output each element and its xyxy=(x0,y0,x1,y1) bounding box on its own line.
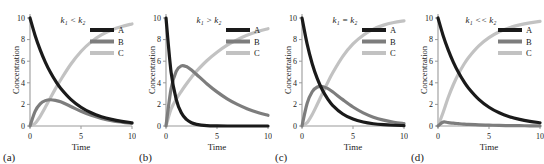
y-tick-label: 0 xyxy=(429,122,433,131)
curve-b xyxy=(438,122,540,126)
y-tick-label: 8 xyxy=(157,35,161,44)
y-tick-label: 4 xyxy=(21,79,25,88)
legend-label-b: B xyxy=(526,37,532,47)
x-tick-label: 10 xyxy=(536,132,544,141)
y-tick-label: 6 xyxy=(429,57,433,66)
curve-b xyxy=(166,66,268,126)
curve-c xyxy=(438,21,540,126)
y-tick-label: 0 xyxy=(21,122,25,131)
rate-annotation: k₁ > k₂ xyxy=(197,15,222,25)
x-tick-label: 5 xyxy=(79,132,83,141)
y-tick-label: 10 xyxy=(153,14,161,23)
y-tick-label: 4 xyxy=(157,79,161,88)
x-tick-label: 5 xyxy=(215,132,219,141)
legend-label-a: A xyxy=(118,25,125,35)
x-axis-label: Time xyxy=(302,142,404,152)
plot-panel-c: 02468100510k₁ = k₂ABCConcentrationTime(c… xyxy=(272,0,408,164)
y-tick-label: 2 xyxy=(429,100,433,109)
rate-annotation: k₁ < k₂ xyxy=(61,15,86,25)
y-tick-label: 2 xyxy=(157,100,161,109)
x-tick-label: 0 xyxy=(300,132,304,141)
y-axis-label: Concentration xyxy=(407,0,417,24)
curve-c xyxy=(302,21,404,126)
legend-label-b: B xyxy=(118,37,124,47)
y-tick-label: 2 xyxy=(21,100,25,109)
y-tick-label: 0 xyxy=(293,122,297,131)
legend-label-a: A xyxy=(390,25,397,35)
legend-label-b: B xyxy=(390,37,396,47)
x-axis-label: Time xyxy=(30,142,132,152)
y-tick-label: 0 xyxy=(157,122,161,131)
x-tick-label: 0 xyxy=(164,132,168,141)
panel-label-b: (b) xyxy=(139,151,152,163)
x-tick-label: 10 xyxy=(400,132,408,141)
x-axis-label: Time xyxy=(166,142,268,152)
legend-label-c: C xyxy=(118,48,124,58)
y-tick-label: 4 xyxy=(429,79,433,88)
plot-panel-a: 02468100510k₁ < k₂ABCConcentrationTime(a… xyxy=(0,0,136,164)
legend-label-b: B xyxy=(254,37,260,47)
x-tick-label: 0 xyxy=(28,132,32,141)
legend-label-c: C xyxy=(390,48,396,58)
legend-label-c: C xyxy=(526,48,532,58)
y-tick-label: 8 xyxy=(293,35,297,44)
plot-panel-b: 02468100510k₁ > k₂ABCConcentrationTime(b… xyxy=(136,0,272,164)
rate-annotation: k₁ = k₂ xyxy=(333,15,358,25)
legend-label-c: C xyxy=(254,48,260,58)
y-tick-label: 10 xyxy=(289,14,297,23)
y-tick-label: 6 xyxy=(293,57,297,66)
y-tick-label: 2 xyxy=(293,100,297,109)
y-tick-label: 8 xyxy=(21,35,25,44)
panel-label-c: (c) xyxy=(275,151,287,163)
y-tick-label: 6 xyxy=(21,57,25,66)
curve-a xyxy=(438,18,540,123)
curve-a xyxy=(302,18,404,126)
x-tick-label: 5 xyxy=(351,132,355,141)
legend-label-a: A xyxy=(526,25,533,35)
panel-label-a: (a) xyxy=(3,151,15,163)
y-axis-label: Concentration xyxy=(135,0,145,24)
y-axis-label: Concentration xyxy=(271,0,281,24)
y-axis-label: Concentration xyxy=(0,0,9,24)
x-axis-label: Time xyxy=(438,142,540,152)
x-tick-label: 0 xyxy=(436,132,440,141)
y-tick-label: 6 xyxy=(157,57,161,66)
plot-panel-d: 02468100510k₁ << k₂ABCConcentrationTime(… xyxy=(408,0,544,164)
x-tick-label: 10 xyxy=(128,132,136,141)
y-tick-label: 10 xyxy=(17,14,25,23)
y-tick-label: 4 xyxy=(293,79,297,88)
legend-label-a: A xyxy=(254,25,261,35)
kinetics-figure: 02468100510k₁ < k₂ABCConcentrationTime(a… xyxy=(0,0,544,164)
y-tick-label: 8 xyxy=(429,35,433,44)
rate-annotation: k₁ << k₂ xyxy=(466,15,497,25)
x-tick-label: 10 xyxy=(264,132,272,141)
y-tick-label: 10 xyxy=(425,14,433,23)
x-tick-label: 5 xyxy=(487,132,491,141)
panel-label-d: (d) xyxy=(411,151,424,163)
